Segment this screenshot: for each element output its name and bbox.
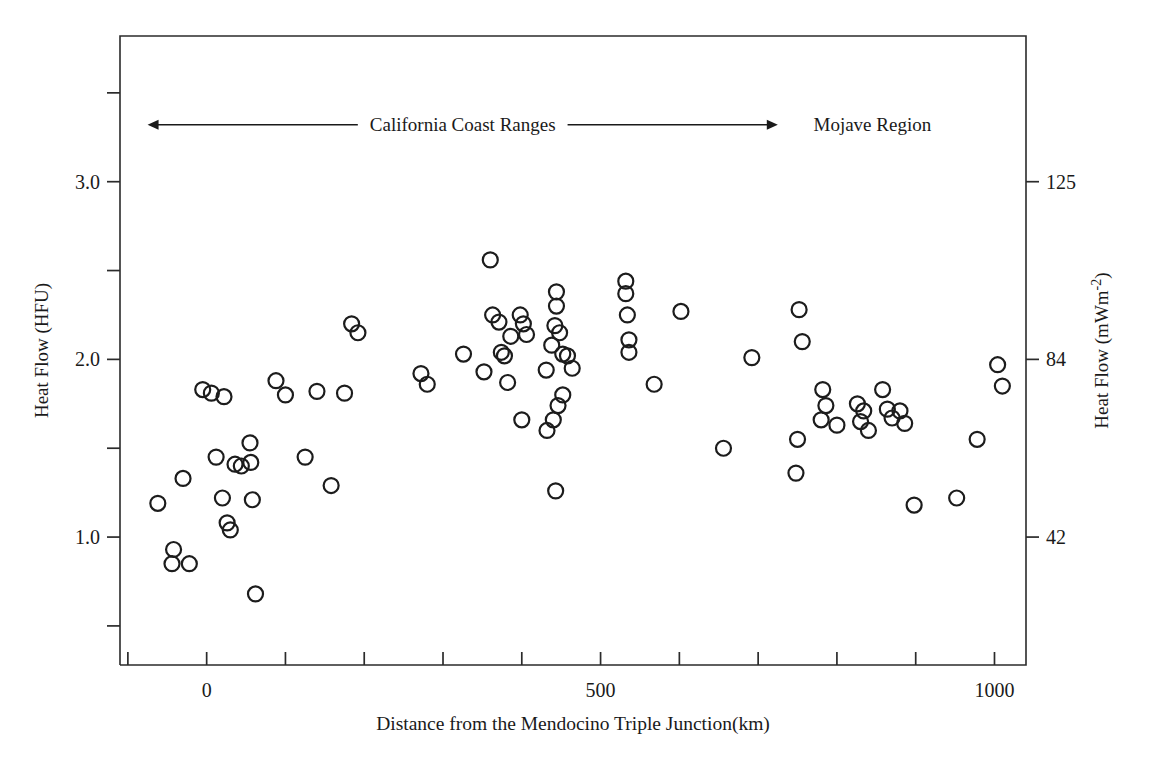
data-point xyxy=(548,483,563,498)
data-point xyxy=(549,299,564,314)
data-point xyxy=(215,490,230,505)
data-point xyxy=(503,329,518,344)
data-point xyxy=(814,412,829,427)
data-point xyxy=(242,435,257,450)
data-point xyxy=(164,556,179,571)
data-point xyxy=(456,347,471,362)
data-point xyxy=(907,498,922,513)
y-tick-label-left: 2.0 xyxy=(75,348,100,370)
data-point xyxy=(195,382,210,397)
data-point xyxy=(513,307,528,322)
x-tick-label: 0 xyxy=(202,679,212,701)
data-point xyxy=(620,307,635,322)
data-point xyxy=(788,466,803,481)
data-point xyxy=(818,398,833,413)
arrow-head-left-icon xyxy=(148,120,159,130)
data-point xyxy=(324,478,339,493)
data-point xyxy=(744,350,759,365)
data-point xyxy=(500,375,515,390)
plot-canvas: 1.02.03.0428412505001000Heat Flow (HFU)H… xyxy=(0,0,1149,780)
data-point xyxy=(853,414,868,429)
annotation-mojave-region: Mojave Region xyxy=(814,114,932,135)
y-tick-label-right: 125 xyxy=(1046,171,1076,193)
annotation-california-coast-ranges: California Coast Ranges xyxy=(370,114,556,135)
data-point xyxy=(970,432,985,447)
y-tick-label-right: 42 xyxy=(1046,526,1066,548)
data-point xyxy=(565,361,580,376)
data-point xyxy=(897,416,912,431)
x-tick-label: 500 xyxy=(586,679,616,701)
y-tick-label-left: 1.0 xyxy=(75,526,100,548)
data-point xyxy=(483,252,498,267)
x-axis-title: Distance from the Mendocino Triple Junct… xyxy=(376,713,770,735)
heat-flow-scatter-figure: 1.02.03.0428412505001000Heat Flow (HFU)H… xyxy=(0,0,1149,780)
data-point xyxy=(248,586,263,601)
data-point xyxy=(990,357,1005,372)
data-point xyxy=(245,492,260,507)
data-point xyxy=(539,363,554,378)
data-point xyxy=(268,373,283,388)
data-point xyxy=(514,412,529,427)
y-tick-label-right: 84 xyxy=(1046,348,1066,370)
data-point xyxy=(795,334,810,349)
x-tick-label: 1000 xyxy=(974,679,1014,701)
data-point xyxy=(298,450,313,465)
data-point xyxy=(278,387,293,402)
data-point xyxy=(516,316,531,331)
data-point xyxy=(792,302,807,317)
arrow-head-right-icon xyxy=(767,120,778,130)
data-point xyxy=(815,382,830,397)
data-points-group xyxy=(150,252,1010,601)
data-point xyxy=(209,450,224,465)
data-point xyxy=(150,496,165,511)
data-point xyxy=(673,304,688,319)
data-point xyxy=(995,379,1010,394)
data-point xyxy=(497,348,512,363)
data-point xyxy=(716,441,731,456)
y-axis-title-left: Heat Flow (HFU) xyxy=(31,283,53,418)
data-point xyxy=(949,490,964,505)
data-point xyxy=(647,377,662,392)
data-point xyxy=(243,455,258,470)
data-point xyxy=(861,423,876,438)
data-point xyxy=(176,471,191,486)
data-point xyxy=(829,418,844,433)
y-tick-label-left: 3.0 xyxy=(75,171,100,193)
data-point xyxy=(309,384,324,399)
data-point xyxy=(875,382,890,397)
data-point xyxy=(549,284,564,299)
data-point xyxy=(790,432,805,447)
data-point xyxy=(519,327,534,342)
data-point xyxy=(166,542,181,557)
data-point xyxy=(337,386,352,401)
data-point xyxy=(182,556,197,571)
data-point xyxy=(476,364,491,379)
y-axis-title-right: Heat Flow (mWm-2) xyxy=(1089,272,1114,428)
